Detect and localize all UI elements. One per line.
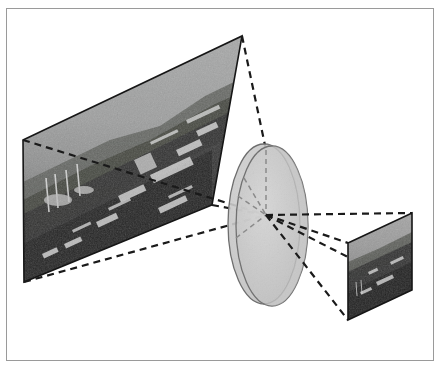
biconvex-lens <box>228 144 308 306</box>
figure-canvas <box>0 0 440 375</box>
lens-projection-figure: Lens projection diagram Perspective opti… <box>0 0 440 375</box>
